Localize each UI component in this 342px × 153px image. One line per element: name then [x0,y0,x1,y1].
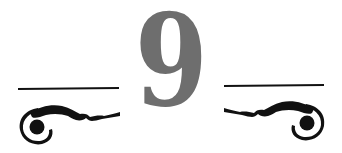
chapter-number: 9 [31,0,311,124]
